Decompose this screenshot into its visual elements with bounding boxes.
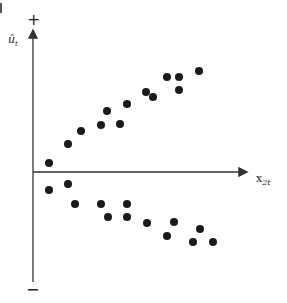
- data-point: [195, 67, 203, 75]
- data-point: [175, 86, 183, 94]
- data-point: [143, 219, 151, 227]
- positive-marker: +: [27, 10, 40, 29]
- data-point: [77, 127, 85, 135]
- data-point: [45, 159, 53, 167]
- data-point: [163, 73, 171, 81]
- y-axis-label: ût: [8, 33, 18, 48]
- negative-marker: −: [26, 280, 39, 299]
- data-point: [175, 73, 183, 81]
- data-point: [45, 186, 53, 194]
- x-axis-label: x2t: [256, 172, 271, 187]
- data-point: [103, 107, 111, 115]
- data-point: [123, 100, 131, 108]
- data-point: [123, 200, 131, 208]
- data-point: [64, 180, 72, 188]
- data-point: [142, 88, 150, 96]
- scatter-plot: [0, 0, 287, 303]
- data-point: [97, 200, 105, 208]
- data-point: [71, 200, 79, 208]
- data-point: [97, 121, 105, 129]
- data-point: [189, 238, 197, 246]
- data-point: [163, 232, 171, 240]
- data-point: [209, 238, 217, 246]
- data-points: [45, 67, 217, 246]
- data-point: [116, 120, 124, 128]
- data-point: [170, 218, 178, 226]
- data-point: [104, 213, 112, 221]
- data-point: [64, 140, 72, 148]
- data-point: [123, 213, 131, 221]
- data-point: [196, 225, 204, 233]
- data-point: [149, 93, 157, 101]
